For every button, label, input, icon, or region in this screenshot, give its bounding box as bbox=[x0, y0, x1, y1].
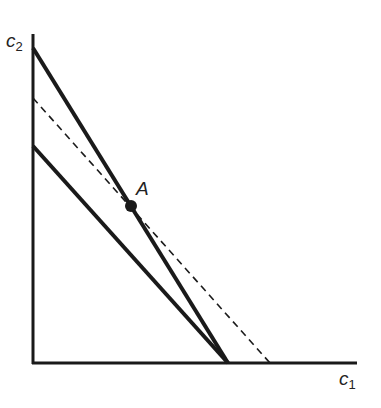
point-a-label: A bbox=[135, 178, 149, 199]
y-axis-label: c2 bbox=[6, 30, 23, 54]
point-a-marker bbox=[125, 200, 137, 212]
diagram-canvas: c2 c1 A bbox=[0, 0, 381, 408]
dashed-line bbox=[33, 98, 270, 363]
shallow-budget-line bbox=[33, 146, 228, 363]
x-axis-label: c1 bbox=[339, 368, 356, 392]
